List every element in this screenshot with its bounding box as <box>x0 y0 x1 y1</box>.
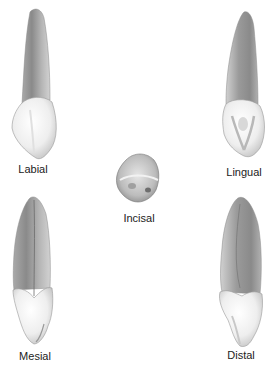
mesial-tooth-illustration <box>0 184 136 367</box>
label-lingual: Lingual <box>226 166 261 178</box>
label-labial: Labial <box>18 163 47 175</box>
label-distal: Distal <box>227 349 255 361</box>
tooth-view-mesial: Mesial <box>0 184 136 367</box>
label-mesial: Mesial <box>19 350 51 362</box>
tooth-view-distal: Distal <box>136 184 273 367</box>
distal-tooth-illustration <box>136 184 273 367</box>
